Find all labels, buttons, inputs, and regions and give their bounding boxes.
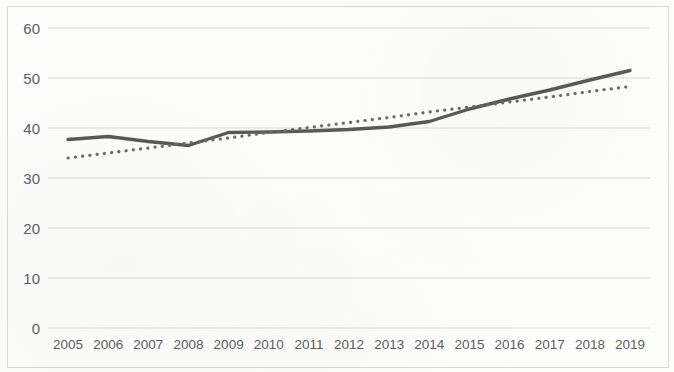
x-tick-label: 2005 <box>48 338 88 360</box>
y-tick-label: 40 <box>6 121 40 136</box>
y-tick-label: 10 <box>6 271 40 286</box>
x-tick-label: 2008 <box>168 338 208 360</box>
gridlines <box>48 28 650 328</box>
y-axis: 0102030405060 <box>0 28 40 328</box>
y-tick-label: 60 <box>6 21 40 36</box>
figure-top-rule <box>7 6 669 7</box>
linear-trendline <box>68 87 630 159</box>
data-series <box>68 71 630 146</box>
x-tick-label: 2014 <box>409 338 449 360</box>
y-tick-label: 30 <box>6 171 40 186</box>
x-tick-label: 2019 <box>610 338 650 360</box>
x-tick-label: 2015 <box>449 338 489 360</box>
y-tick-label: 50 <box>6 71 40 86</box>
x-tick-label: 2011 <box>289 338 329 360</box>
chart-figure: 0102030405060 20052006200720082009201020… <box>0 0 674 372</box>
series-layer <box>68 71 630 159</box>
x-tick-label: 2018 <box>570 338 610 360</box>
x-tick-label: 2016 <box>490 338 530 360</box>
x-tick-label: 2012 <box>329 338 369 360</box>
plot-area <box>48 28 650 328</box>
y-tick-label: 20 <box>6 221 40 236</box>
x-tick-label: 2009 <box>209 338 249 360</box>
x-tick-label: 2013 <box>369 338 409 360</box>
x-tick-label: 2017 <box>530 338 570 360</box>
x-tick-label: 2007 <box>128 338 168 360</box>
y-tick-label: 0 <box>6 321 40 336</box>
plot-canvas <box>48 28 650 328</box>
x-axis: 2005200620072008200920102011201220132014… <box>48 338 650 360</box>
x-tick-label: 2010 <box>249 338 289 360</box>
x-tick-label: 2006 <box>88 338 128 360</box>
